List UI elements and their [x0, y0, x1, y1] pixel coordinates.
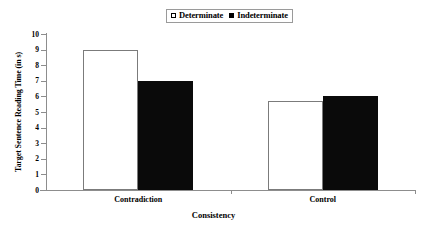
y-axis-tick-label: 3 [35, 140, 39, 148]
x-axis-category-label: Control [263, 196, 383, 204]
y-axis-tick-label: 5 [35, 109, 39, 117]
x-axis-title: Consistency [0, 211, 427, 220]
legend-label-indeterminate: Indeterminate [237, 11, 288, 20]
legend-entry-indeterminate: Indeterminate [229, 11, 288, 20]
y-axis-tick-label: 1 [35, 171, 39, 179]
y-axis-tick-label: 7 [35, 78, 39, 86]
x-axis-divider-tick [415, 190, 416, 194]
y-axis-tick-label: 2 [35, 156, 39, 164]
y-axis-tick-label: 6 [35, 93, 39, 101]
y-axis-tick-label: 4 [35, 124, 39, 132]
bar-indeterminate-control [323, 96, 378, 190]
y-axis-tick: 0 [41, 190, 46, 191]
x-axis-category-label: Contradiction [78, 196, 198, 204]
filled-square-icon [229, 13, 234, 18]
y-axis-title: Target Sentence Reading Time (in s) [13, 34, 25, 190]
bar-determinate-contradiction [83, 50, 138, 190]
y-axis-tick-label: 10 [32, 31, 40, 39]
bar-determinate-control [268, 101, 323, 190]
x-axis-line [40, 190, 415, 191]
x-axis-divider-tick [231, 190, 232, 194]
chart-legend: Determinate Indeterminate [166, 9, 293, 23]
bar-indeterminate-contradiction [138, 81, 193, 190]
y-axis-tick-label: 8 [35, 62, 39, 70]
y-axis-tick-label: 9 [35, 46, 39, 54]
open-square-icon [171, 13, 176, 18]
bar-chart-figure: Determinate Indeterminate 109876543210 T… [0, 0, 427, 234]
plot-area [46, 34, 415, 190]
y-axis-tick-label: 0 [35, 187, 39, 195]
legend-entry-determinate: Determinate [171, 11, 223, 20]
legend-label-determinate: Determinate [179, 11, 223, 20]
